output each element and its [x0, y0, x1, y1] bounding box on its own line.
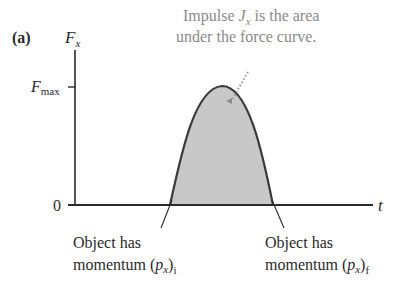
- force-time-diagram: (a) Fx Fmax 0 t Impulse Jx is the area u…: [0, 0, 420, 292]
- impulse-annotation-line1: Impulse Jx is the area: [183, 7, 319, 27]
- final-momentum-line2: momentum (px)f: [265, 256, 369, 276]
- final-momentum-line1: Object has: [265, 234, 333, 252]
- y-axis-label: Fx: [64, 28, 80, 49]
- fmax-label: Fmax: [30, 78, 60, 97]
- initial-momentum-line1: Object has: [73, 234, 141, 252]
- x-axis-label: t: [378, 196, 384, 215]
- panel-label: (a): [12, 29, 31, 47]
- initial-momentum-line2: momentum (px)i: [73, 256, 177, 276]
- impulse-annotation-line2: under the force curve.: [176, 28, 316, 45]
- zero-label: 0: [53, 197, 61, 214]
- impulse-area: [170, 86, 273, 205]
